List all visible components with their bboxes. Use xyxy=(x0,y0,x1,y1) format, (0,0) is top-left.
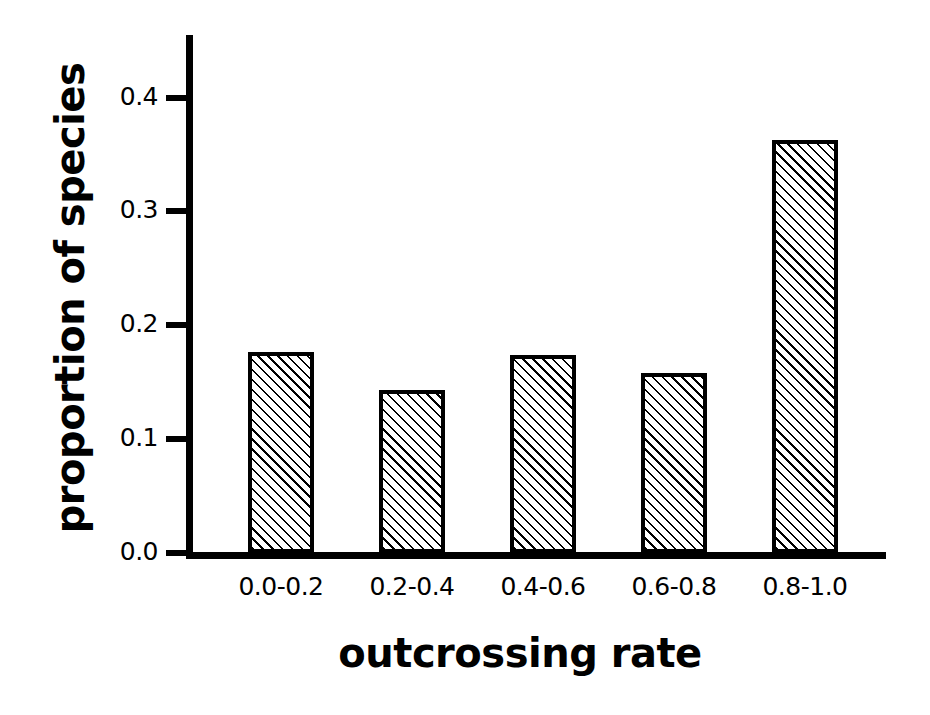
bar-1[interactable] xyxy=(379,390,445,553)
bar-3[interactable] xyxy=(641,373,707,553)
plot-area: 0.0-0.2 0.2-0.4 0.4-0.6 0.6-0.8 0.8-1.0 xyxy=(0,0,930,715)
x-axis-title: outcrossing rate xyxy=(190,630,850,676)
bar-4[interactable] xyxy=(772,140,838,553)
bar-chart-figure: proportion of species 0.0 0.1 0.2 0.3 0.… xyxy=(0,0,930,715)
bar-0[interactable] xyxy=(248,352,314,553)
bar-2[interactable] xyxy=(510,355,576,553)
x-tick-label-4: 0.8-1.0 xyxy=(715,572,895,601)
